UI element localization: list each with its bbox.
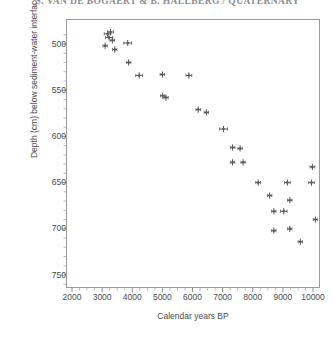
y-tick: 700 <box>30 224 66 233</box>
plot-frame <box>66 19 320 288</box>
page-header-title: S. VAN DE BOGAERT & B. HALLBERG / QUATER… <box>0 0 335 7</box>
y-tick-label: 650 <box>38 178 66 187</box>
y-tick-label: 500 <box>38 40 66 49</box>
y-tick: 750 <box>30 271 66 280</box>
x-tick-label: 10000 <box>288 292 335 302</box>
x-axis-title: Calendar years BP <box>66 311 320 321</box>
x-tick: 10000 <box>288 292 335 302</box>
figure-container: S. VAN DE BOGAERT & B. HALLBERG / QUATER… <box>0 0 335 337</box>
y-tick-label: 700 <box>38 224 66 233</box>
y-tick-label: 550 <box>38 86 66 95</box>
y-tick-label: 750 <box>38 271 66 280</box>
y-axis-title: Depth (cm) below sediment-water interfac… <box>29 0 39 177</box>
y-tick-label: 600 <box>38 132 66 141</box>
y-tick: 650 <box>30 178 66 187</box>
